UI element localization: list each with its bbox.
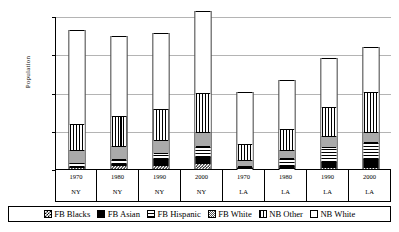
x-axis-year-label: 1980 (265, 173, 306, 181)
bar-segment (70, 150, 85, 163)
segment-divider (322, 136, 337, 137)
segment-divider (322, 162, 337, 163)
bar-column[interactable] (56, 17, 98, 169)
bar-column[interactable] (140, 17, 182, 169)
stacked-bar[interactable] (321, 58, 338, 169)
bar-segment (322, 162, 337, 168)
bar-segment (280, 158, 295, 166)
bar-segment (280, 80, 295, 129)
bar-segment (154, 166, 169, 169)
bar-segment (364, 168, 379, 169)
x-axis-year-label: 2000 (349, 173, 390, 181)
bar-segment (112, 164, 127, 166)
bar-segment (322, 147, 337, 162)
stacked-bar[interactable] (195, 11, 212, 169)
checkerboard-swatch (44, 210, 52, 218)
bar-column[interactable] (224, 17, 266, 169)
bar-segment (70, 167, 85, 168)
bar-segment (364, 47, 379, 92)
segment-divider (238, 92, 253, 93)
white-swatch (310, 210, 318, 218)
bar-segment (364, 132, 379, 142)
fine-checker-swatch (208, 210, 216, 218)
segment-divider (70, 124, 85, 125)
bar-column[interactable] (266, 17, 308, 169)
x-axis-year-label: 2000 (181, 173, 222, 181)
legend-item-label: FB Blacks (54, 210, 90, 219)
bar-segment (70, 163, 85, 166)
bar-segment (112, 159, 127, 164)
segment-divider (196, 11, 211, 12)
legend-item-label: NB White (320, 210, 355, 219)
bar-segment (322, 136, 337, 147)
bar-segment (154, 109, 169, 140)
x-axis-place-label: NY (139, 188, 180, 196)
x-axis-cell: 1990LA (307, 170, 349, 202)
segment-divider (280, 150, 295, 151)
bar-segment (112, 146, 127, 159)
segment-divider (280, 158, 295, 159)
bar-segment (280, 129, 295, 150)
stacked-bar[interactable] (237, 92, 254, 169)
x-axis-year-label: 1980 (97, 173, 138, 181)
bar-series-container (56, 17, 391, 169)
segment-divider (70, 167, 85, 168)
segment-divider (322, 58, 337, 59)
bar-segment (280, 166, 295, 168)
bar-segment (322, 58, 337, 107)
x-axis-cell: 1990NY (139, 170, 181, 202)
x-axis-year-label: 1990 (139, 173, 180, 181)
x-axis-place-label: NY (56, 188, 96, 196)
stacked-bar[interactable] (279, 80, 296, 169)
legend-item[interactable]: FB Blacks (44, 210, 91, 219)
legend-item[interactable]: FB White (208, 210, 252, 219)
segment-divider (154, 109, 169, 110)
x-axis-year-label: 1970 (56, 173, 96, 181)
stacked-bar[interactable] (111, 36, 128, 169)
x-axis-year-label: 1990 (307, 173, 348, 181)
bar-segment (196, 11, 211, 93)
bar-column[interactable] (308, 17, 350, 169)
chart-legend: FB BlacksFB AsianFB HispanicFB WhiteNB O… (8, 206, 391, 222)
segment-divider (238, 144, 253, 145)
bar-segment (70, 124, 85, 150)
segment-divider (154, 153, 169, 154)
bar-segment (280, 150, 295, 158)
legend-item[interactable]: FB Hispanic (147, 210, 201, 219)
legend-item[interactable]: FB Asian (97, 210, 140, 219)
bar-segment (196, 132, 211, 147)
segment-divider (280, 166, 295, 167)
segment-divider (364, 92, 379, 93)
bar-column[interactable] (350, 17, 392, 169)
x-axis-place-label: LA (307, 188, 348, 196)
x-axis-cell: 1970NY (55, 170, 97, 202)
stacked-bar[interactable] (69, 30, 86, 169)
bar-segment (154, 159, 169, 165)
bar-segment (322, 107, 337, 136)
segment-divider (238, 166, 253, 167)
x-axis-cell: 2000NY (181, 170, 223, 202)
bar-segment (112, 166, 127, 169)
stacked-bar[interactable] (363, 47, 380, 169)
legend-item[interactable]: NB White (310, 210, 355, 219)
legend-item-label: FB Asian (108, 210, 140, 219)
segment-divider (154, 140, 169, 141)
segment-divider (280, 80, 295, 81)
stacked-bar[interactable] (153, 33, 170, 169)
x-axis-place-label: NY (181, 188, 222, 196)
bar-segment (112, 116, 127, 145)
segment-divider (322, 147, 337, 148)
x-axis: 1970NY1980NY1990NY2000NY1970LA1980LA1990… (55, 170, 391, 202)
segment-divider (364, 142, 379, 143)
segment-divider (154, 159, 169, 160)
bar-segment (196, 93, 211, 131)
bar-segment (238, 144, 253, 160)
legend-item[interactable]: NB Other (259, 210, 303, 219)
segment-divider (364, 159, 379, 160)
bar-column[interactable] (182, 17, 224, 169)
x-axis-cell: 1970LA (223, 170, 265, 202)
legend-item-label: FB White (218, 210, 252, 219)
bar-segment (196, 157, 211, 165)
segment-divider (70, 163, 85, 164)
bar-column[interactable] (98, 17, 140, 169)
